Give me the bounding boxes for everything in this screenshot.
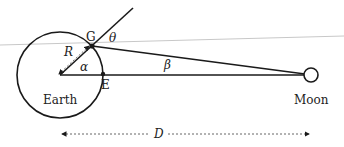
- label-e: E: [101, 78, 110, 92]
- horizon-line: [0, 36, 344, 45]
- label-g: G: [86, 30, 96, 44]
- label-moon: Moon: [294, 93, 329, 107]
- point-g: [89, 43, 94, 48]
- earth-moon-parallax-diagram: G θ R α β E Earth Moon D: [0, 0, 344, 147]
- label-alpha: α: [80, 60, 88, 74]
- label-theta: θ: [109, 31, 117, 45]
- moon-circle: [304, 68, 318, 82]
- g-to-moon-line: [92, 46, 305, 74]
- label-beta: β: [163, 58, 171, 72]
- label-d: D: [153, 127, 164, 141]
- point-e: [101, 72, 105, 76]
- label-r: R: [63, 45, 73, 59]
- label-earth: Earth: [43, 93, 77, 107]
